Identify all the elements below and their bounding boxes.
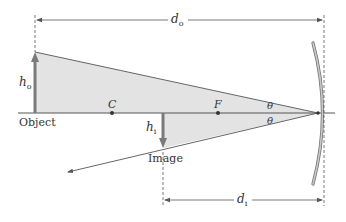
mirror-vertex-point (316, 111, 320, 115)
image-distance-label: di (237, 192, 248, 208)
angle-bottom-label: θ (267, 115, 273, 126)
image-distance-dimension: di (165, 192, 322, 208)
object-label: Object (19, 116, 56, 129)
object-distance-dimension: do (37, 12, 322, 28)
focal-point-label: F (213, 98, 222, 111)
object-distance-label: do (171, 12, 184, 28)
angle-top-label: θ (267, 100, 273, 111)
object-height-label: ho (19, 75, 32, 91)
image-height-label: hi (146, 120, 157, 136)
center-of-curvature-label: C (108, 98, 117, 111)
focal-point (216, 111, 220, 115)
ray-diagram: do di C F θ θ Object Image ho hi (0, 0, 346, 222)
image-label: Image (148, 152, 183, 165)
center-of-curvature-point (110, 111, 114, 115)
